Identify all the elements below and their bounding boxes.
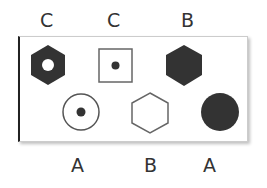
bottom-label-3: A: [203, 156, 216, 175]
circle-filled-icon: [201, 93, 239, 131]
hexagon-with-hole-icon: [31, 45, 65, 85]
hexagon-filled-icon: [166, 45, 202, 86]
circle-with-dot-icon: [63, 94, 99, 130]
bottom-label-2: B: [144, 156, 157, 175]
hexagon-outline-icon: [132, 93, 168, 133]
shapes-layer: [0, 0, 267, 188]
square-with-dot-icon: [99, 49, 132, 82]
bottom-label-1: A: [71, 156, 84, 175]
